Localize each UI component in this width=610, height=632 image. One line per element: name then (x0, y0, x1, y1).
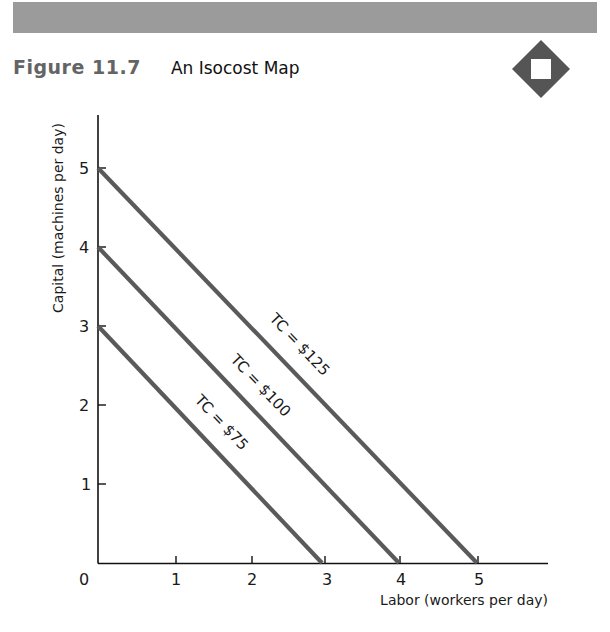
isocost-line-100 (98, 247, 399, 563)
isocost-line-125 (98, 168, 477, 563)
isocost-chart: 5 4 3 2 1 0 1 2 3 4 5 Labor (workers per… (0, 0, 610, 632)
y-tick-label-3: 3 (79, 317, 89, 336)
origin-label: 0 (79, 570, 89, 589)
label-tc-125: TC = $125 (265, 309, 333, 379)
x-tick-label-1: 1 (171, 570, 181, 589)
x-tick-label-4: 4 (396, 570, 406, 589)
x-ticks (176, 556, 478, 563)
x-tick-label-2: 2 (247, 570, 257, 589)
y-axis-label: Capital (machines per day) (50, 123, 66, 313)
y-tick-label-5: 5 (79, 159, 89, 178)
y-tick-label-4: 4 (79, 238, 89, 257)
y-tick-label-1: 1 (81, 475, 91, 494)
y-tick-label-2: 2 (79, 396, 89, 415)
x-axis-label: Labor (workers per day) (380, 592, 548, 608)
x-tick-label-5: 5 (474, 570, 484, 589)
x-tick-label-3: 3 (322, 570, 332, 589)
